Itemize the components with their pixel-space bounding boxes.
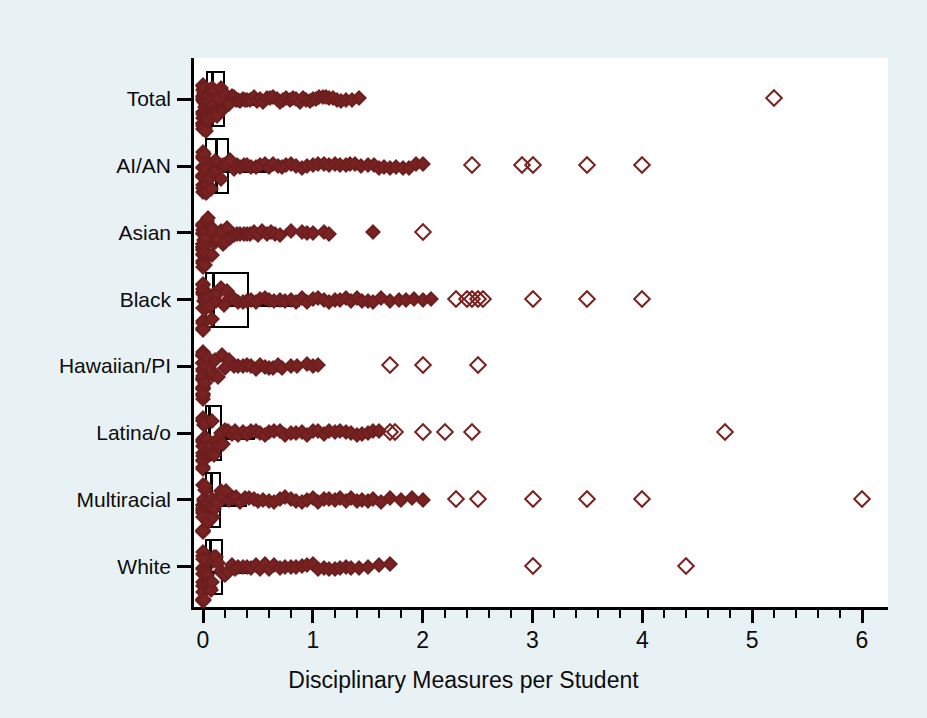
x-tick-major — [311, 610, 314, 623]
x-tick-minor — [729, 610, 731, 618]
x-tick-major — [641, 610, 644, 623]
x-tick-minor — [553, 610, 555, 618]
y-tick — [177, 432, 191, 435]
y-tick — [177, 165, 191, 168]
x-tick-minor — [290, 610, 292, 618]
x-tick-minor — [224, 610, 226, 618]
x-tick-minor — [839, 610, 841, 618]
x-tick-major — [531, 610, 534, 623]
x-tick-minor — [268, 610, 270, 618]
x-tick-minor — [817, 610, 819, 618]
y-category-label: Total — [0, 88, 171, 109]
y-tick — [177, 565, 191, 568]
plot-panel — [191, 58, 888, 607]
x-tick-minor — [246, 610, 248, 618]
x-tick-minor — [510, 610, 512, 618]
x-tick-label: 0 — [173, 629, 233, 652]
x-tick-minor — [795, 610, 797, 618]
y-tick — [177, 231, 191, 234]
x-tick-major — [861, 610, 864, 623]
x-tick-minor — [378, 610, 380, 618]
x-tick-major — [751, 610, 754, 623]
x-tick-minor — [356, 610, 358, 618]
y-tick — [177, 365, 191, 368]
x-tick-label: 2 — [393, 629, 453, 652]
x-tick-minor — [488, 610, 490, 618]
chart-figure: TotalAI/ANAsianBlackHawaiian/PILatina/oM… — [0, 0, 927, 718]
y-category-label: Asian — [0, 222, 171, 243]
x-tick-minor — [444, 610, 446, 618]
x-tick-minor — [619, 610, 621, 618]
x-tick-minor — [707, 610, 709, 618]
y-axis-line — [191, 58, 194, 607]
x-tick-minor — [773, 610, 775, 618]
x-tick-minor — [597, 610, 599, 618]
y-category-label: Latina/o — [0, 422, 171, 443]
x-tick-label: 5 — [722, 629, 782, 652]
x-tick-minor — [575, 610, 577, 618]
x-tick-label: 3 — [503, 629, 563, 652]
y-category-label: Multiracial — [0, 489, 171, 510]
y-category-label: Hawaiian/PI — [0, 355, 171, 376]
x-tick-major — [421, 610, 424, 623]
x-tick-major — [202, 610, 205, 623]
y-category-label: Black — [0, 289, 171, 310]
x-axis-line — [191, 607, 888, 610]
y-category-label: AI/AN — [0, 155, 171, 176]
x-tick-minor — [400, 610, 402, 618]
x-tick-minor — [685, 610, 687, 618]
y-tick — [177, 98, 191, 101]
x-tick-minor — [663, 610, 665, 618]
x-tick-minor — [334, 610, 336, 618]
x-tick-label: 4 — [612, 629, 672, 652]
x-tick-label: 1 — [283, 629, 343, 652]
y-category-label: White — [0, 556, 171, 577]
x-tick-label: 6 — [832, 629, 892, 652]
x-axis-title: Disciplinary Measures per Student — [0, 669, 927, 692]
y-tick — [177, 498, 191, 501]
y-tick — [177, 298, 191, 301]
x-tick-minor — [466, 610, 468, 618]
